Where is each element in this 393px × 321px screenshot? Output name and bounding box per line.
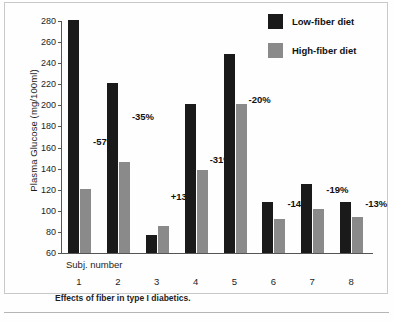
y-axis-tick-labels: 2802602402202001801601401201008060 (22, 0, 56, 321)
legend-item[interactable]: High-fiber diet (268, 43, 356, 58)
figure-container: Plasma Glucose (mg/100ml) 28026024022020… (0, 0, 393, 321)
bar-high-fiber[interactable] (119, 162, 130, 253)
y-axis-tick-label: 120 (22, 185, 56, 194)
x-axis-tick-label: 7 (295, 276, 329, 287)
bar-high-fiber[interactable] (352, 217, 363, 253)
bar-group: +13% (146, 21, 185, 253)
bar-group: -20% (224, 21, 263, 253)
x-axis-line (61, 253, 373, 254)
x-axis-tick-label: 2 (101, 276, 135, 287)
x-axis-tick-label: 4 (179, 276, 213, 287)
bar-high-fiber[interactable] (158, 226, 169, 253)
bar-group: -35% (107, 21, 146, 253)
bar-high-fiber[interactable] (236, 104, 247, 253)
bar-high-fiber[interactable] (80, 189, 91, 253)
y-axis-tick-label: 80 (22, 227, 56, 236)
y-axis-tick-label: 280 (22, 17, 56, 26)
x-axis-tick-label: 6 (256, 276, 290, 287)
bar-low-fiber[interactable] (340, 202, 351, 253)
y-axis-tick-label: 220 (22, 80, 56, 89)
figure-caption: Effects of fiber in type I diabetics. (55, 293, 191, 303)
legend-item[interactable]: Low-fiber diet (268, 14, 356, 29)
legend-label: Low-fiber diet (292, 16, 354, 27)
bar-high-fiber[interactable] (274, 219, 285, 253)
y-axis-tick-label: 100 (22, 206, 56, 215)
legend-swatch-icon (268, 43, 283, 58)
y-axis-tick-label: 160 (22, 143, 56, 152)
bar-low-fiber[interactable] (301, 184, 312, 253)
y-axis-tick-label: 180 (22, 122, 56, 131)
bar-high-fiber[interactable] (313, 209, 324, 253)
x-axis-tick-label: 1 (62, 276, 96, 287)
bar-low-fiber[interactable] (146, 235, 157, 253)
y-axis-tick-label: 260 (22, 38, 56, 47)
bar-low-fiber[interactable] (262, 202, 273, 253)
bar-low-fiber[interactable] (224, 54, 235, 253)
legend-label: High-fiber diet (292, 45, 356, 56)
bar-low-fiber[interactable] (107, 83, 118, 253)
bar-low-fiber[interactable] (68, 20, 79, 253)
chart-legend: Low-fiber dietHigh-fiber diet (268, 14, 356, 72)
y-axis-tick-label: 200 (22, 101, 56, 110)
legend-swatch-icon (268, 14, 283, 29)
bar-group: -57% (68, 21, 107, 253)
y-axis-tick-label: 240 (22, 59, 56, 68)
x-axis-tick-label: 5 (218, 276, 252, 287)
bar-pct-annotation: -13% (365, 198, 387, 209)
y-axis-tick-label: 60 (22, 249, 56, 258)
bar-group: -31% (185, 21, 224, 253)
x-axis-tick-label: 3 (140, 276, 174, 287)
bottom-divider (4, 312, 389, 313)
bar-low-fiber[interactable] (185, 104, 196, 253)
x-axis-label: Subj. number (66, 259, 123, 270)
y-axis-tick-label: 140 (22, 164, 56, 173)
bar-high-fiber[interactable] (197, 170, 208, 253)
x-axis-tick-label: 8 (334, 276, 368, 287)
